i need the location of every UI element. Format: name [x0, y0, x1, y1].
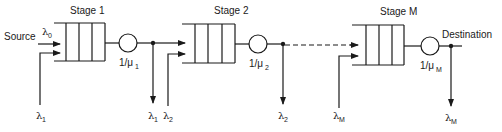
stage-2-server [249, 35, 267, 53]
svg-text:1: 1 [154, 116, 158, 123]
stage-m-service-rate-label: 1/μ M [420, 60, 442, 73]
stage-2-title: Stage 2 [214, 5, 249, 16]
svg-text:0: 0 [48, 32, 52, 39]
stage-1-queue-buffer [54, 23, 105, 61]
stage-1-external-arrival-label: λ 1 [36, 110, 46, 123]
tandem-queue-diagram: Stage 1 Source λ 0 λ 1 1/μ 1 [0, 0, 502, 132]
stage-1-service-rate-label: 1/μ 1 [119, 57, 139, 70]
destination-label: Destination [442, 29, 492, 40]
svg-text:1/μ: 1/μ [420, 60, 434, 71]
svg-text:M: M [339, 116, 345, 123]
stage-1-input-rate-label: λ 0 [42, 26, 52, 39]
stage-1: Stage 1 Source λ 0 λ 1 1/μ 1 [4, 5, 158, 123]
svg-text:2: 2 [265, 64, 269, 71]
stage-2-external-arrival-arrow [168, 54, 185, 106]
stage-m-queue-buffer [352, 25, 404, 65]
stage-m-title: Stage M [380, 6, 417, 17]
stage-m-departure-label: λ M [445, 112, 457, 125]
svg-text:1: 1 [42, 116, 46, 123]
svg-text:M: M [451, 118, 457, 125]
stage-m-external-arrival-arrow [339, 56, 358, 108]
source-label: Source [4, 31, 36, 42]
svg-text:2: 2 [284, 116, 288, 123]
stage-1-server [119, 34, 137, 52]
svg-text:1: 1 [135, 63, 139, 70]
svg-text:1/μ: 1/μ [119, 57, 133, 68]
stage-m: Stage M λ M 1/μ M Destination λ M [333, 6, 492, 125]
stage-2-queue-buffer [182, 24, 235, 63]
stage-1-departure-label: λ 1 [148, 110, 158, 123]
stage-m-server [421, 37, 439, 55]
stage-1-title: Stage 1 [70, 5, 105, 16]
stage-2-departure-label: λ 2 [278, 110, 288, 123]
stage-2-external-arrival-label: λ 2 [163, 110, 173, 123]
svg-text:1/μ: 1/μ [249, 58, 263, 69]
svg-text:2: 2 [169, 116, 173, 123]
stage-2-service-rate-label: 1/μ 2 [249, 58, 269, 71]
svg-text:M: M [436, 66, 442, 73]
stage-m-external-arrival-label: λ M [333, 110, 345, 123]
stage-2: Stage 2 λ 2 1/μ 2 λ 2 [153, 5, 288, 123]
